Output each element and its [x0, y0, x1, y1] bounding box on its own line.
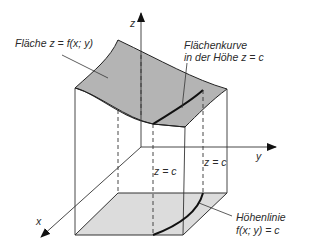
height-label-front: z = c: [154, 165, 176, 177]
surface-curve-label-2: in der Höhe z = c: [184, 51, 264, 63]
z-axis-label: z: [130, 17, 135, 29]
floor-region: [75, 193, 227, 235]
y-axis-label: y: [256, 150, 261, 162]
x-axis-label: x: [36, 215, 41, 227]
surface-label: Fläche z = f(x; y): [15, 37, 93, 49]
contour-label-1: Höhenlinie: [236, 211, 286, 223]
surface-curve-label-1: Flächenkurve: [184, 39, 247, 51]
contour-label-2: f(x; y) = c: [236, 224, 279, 236]
height-label-back: z = c: [204, 156, 226, 168]
